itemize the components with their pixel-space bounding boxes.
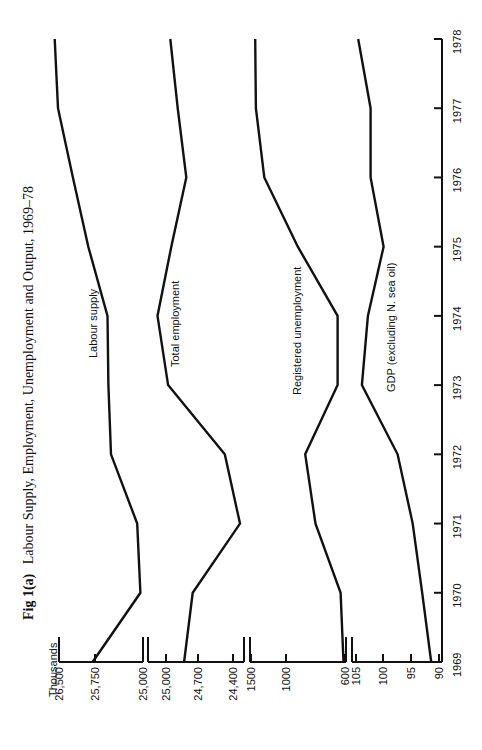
year-tick-label: 1970: [451, 583, 463, 607]
year-tick-label: 1978: [451, 30, 463, 54]
series-lines: [55, 39, 432, 662]
year-tick-label: 1977: [451, 99, 463, 123]
year-tick-label: 1974: [451, 306, 463, 330]
year-tick-label: 1971: [451, 514, 463, 538]
value-tick-label: 24,700: [192, 667, 204, 701]
value-tick-label: 90: [433, 667, 445, 679]
value-tick-label: 26,500: [53, 667, 65, 701]
chart-canvas: Fig 1(a) Labour Supply, Employment, Unem…: [0, 0, 482, 750]
series-label-total-employment: Total employment: [169, 281, 181, 367]
series-label-registered-unemployment: Registered unemployment: [291, 267, 303, 395]
year-tick-label: 1969: [451, 653, 463, 677]
year-tick-label: 1973: [451, 376, 463, 400]
svg-text:Fig 1(a) Labour Supply,: Fig 1(a) Labour Supply, Employment, Unem…: [21, 186, 37, 620]
year-tick-label: 1975: [451, 237, 463, 261]
year-axis: 1969197019711972197319741975197619771978: [434, 30, 463, 677]
value-axis-1: 25,00024,70024,400: [148, 637, 244, 701]
value-tick-label: 25,750: [89, 667, 101, 701]
figure-number: Fig 1(a): [21, 573, 37, 620]
year-tick-label: 1972: [451, 445, 463, 469]
value-tick-label: 105: [350, 667, 362, 685]
value-axis-2: 15001000600: [245, 637, 351, 691]
value-tick-label: 1000: [280, 667, 292, 691]
year-tick-label: 1976: [451, 168, 463, 192]
value-tick-label: 24,400: [227, 667, 239, 701]
value-tick-label: 100: [377, 667, 389, 685]
value-axis-0: 26,50025,75025,000: [53, 637, 149, 701]
chart-title: Fig 1(a) Labour Supply, Employment, Unem…: [21, 186, 37, 620]
value-axes: 26,50025,75025,00025,00024,70024,4001500…: [53, 637, 445, 701]
value-tick-label: 25,000: [137, 667, 149, 701]
series-label-gdp: GDP (excluding N. sea oil): [385, 263, 397, 392]
value-tick-label: 25,000: [160, 667, 172, 701]
value-tick-label: 1500: [245, 667, 257, 691]
value-tick-label: 95: [405, 667, 417, 679]
figure-title: Labour Supply, Employment, Unemployment …: [21, 186, 36, 564]
series-label-labour-supply: Labour supply: [87, 288, 99, 358]
